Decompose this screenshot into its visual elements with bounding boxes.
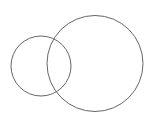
small-circle xyxy=(11,36,71,96)
venn-diagram xyxy=(0,0,156,121)
large-circle xyxy=(47,16,143,112)
